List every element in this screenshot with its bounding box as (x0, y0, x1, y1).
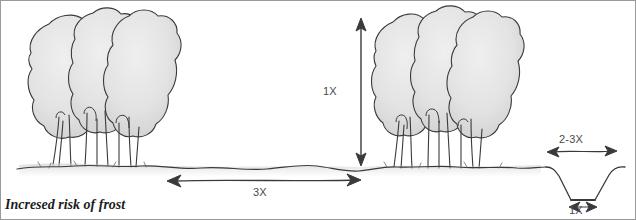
height-dimension-arrow (356, 18, 366, 166)
left-tree-cluster (28, 8, 181, 167)
canopy-shape (447, 11, 524, 138)
diagram-canvas: 1X 3X 2-3X 1X Incresed risk of frost (0, 0, 636, 220)
windbreak-diagram-illustration (1, 1, 636, 220)
frost-risk-caption: Incresed risk of frost (5, 197, 125, 213)
drainage-trench (546, 167, 625, 200)
trench-bottom-width-label: 1X (569, 204, 583, 216)
trench-top-dimension-arrow (547, 146, 617, 157)
gap-dimension-label: 3X (253, 186, 267, 198)
trench-top-width-label: 2-3X (559, 133, 583, 145)
right-tree-cluster (372, 6, 525, 168)
ground-line (17, 161, 546, 177)
canopy-shape (104, 10, 182, 137)
height-dimension-label: 1X (323, 85, 337, 97)
